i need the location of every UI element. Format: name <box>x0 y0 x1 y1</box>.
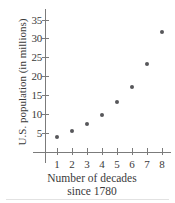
x-tick-label-4: 4 <box>96 158 108 170</box>
x-tick-5 <box>117 148 118 155</box>
x-tick-6 <box>132 148 133 155</box>
x-tick-label-5: 5 <box>111 158 123 170</box>
x-tick-label-8: 8 <box>156 158 168 170</box>
y-tick-20 <box>42 76 49 77</box>
x-tick-4 <box>102 148 103 155</box>
data-point <box>100 113 104 117</box>
y-axis-title: U.S. population (in millions) <box>16 8 28 156</box>
y-tick-35 <box>42 20 49 21</box>
scatter-plot-figure: 35 30 25 20 15 10 5 1 2 3 <box>0 0 175 203</box>
x-axis-title-line2: since 1780 <box>22 185 162 198</box>
y-axis-line <box>45 9 46 163</box>
data-point <box>130 85 134 89</box>
data-point <box>70 129 74 133</box>
bottom-divider <box>6 199 169 200</box>
x-tick-label-3: 3 <box>81 158 93 170</box>
y-tick-10 <box>42 114 49 115</box>
data-point <box>85 122 89 126</box>
data-point <box>55 135 59 139</box>
data-point <box>145 62 149 66</box>
x-tick-label-2: 2 <box>66 158 78 170</box>
x-tick-7 <box>147 148 148 155</box>
y-tick-30 <box>42 38 49 39</box>
y-tick-15 <box>42 95 49 96</box>
y-tick-25 <box>42 57 49 58</box>
x-tick-3 <box>87 148 88 155</box>
data-point <box>160 30 164 34</box>
x-tick-1 <box>57 148 58 155</box>
x-tick-2 <box>72 148 73 155</box>
x-tick-label-6: 6 <box>126 158 138 170</box>
plot-area: 35 30 25 20 15 10 5 1 2 3 <box>0 0 175 203</box>
data-point <box>115 100 119 104</box>
x-tick-8 <box>162 148 163 155</box>
x-tick-label-7: 7 <box>141 158 153 170</box>
x-tick-label-1: 1 <box>51 158 63 170</box>
x-axis-title: Number of decades since 1780 <box>22 172 162 198</box>
x-axis-title-line1: Number of decades <box>47 172 136 184</box>
y-tick-5 <box>42 133 49 134</box>
